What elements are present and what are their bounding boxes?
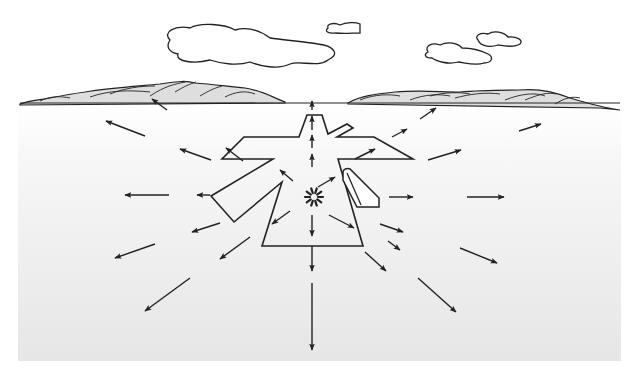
burst-ray	[311, 201, 313, 206]
burst-ray	[315, 188, 317, 193]
cloud-small-top-icon	[326, 23, 360, 34]
burst-ray	[311, 188, 313, 193]
airport-blast-radius-diagram	[0, 0, 633, 368]
burst-ray	[315, 201, 317, 206]
ground-plane	[18, 103, 621, 361]
diagram-canvas	[0, 0, 633, 368]
